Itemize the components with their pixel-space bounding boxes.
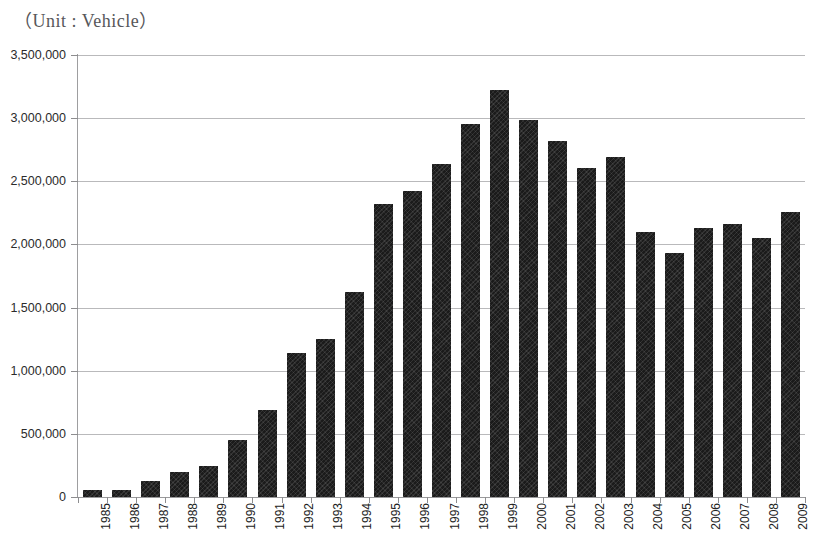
x-axis-tick-label: 1990: [244, 503, 258, 530]
bar-chart: （Unit : Vehicle） 0500,0001,000,0001,500,…: [0, 0, 819, 542]
y-axis-tick-label: 1,500,000: [10, 301, 66, 315]
y-axis-tick-label: 0: [59, 490, 66, 504]
y-axis-tick-label: 500,000: [21, 427, 66, 441]
bar: [752, 238, 771, 497]
y-axis-labels: 0500,0001,000,0001,500,0002,000,0002,500…: [0, 0, 66, 542]
y-axis-tick: [71, 434, 78, 435]
bar: [374, 204, 393, 497]
bar: [199, 466, 218, 497]
bar: [403, 191, 422, 497]
y-axis-tick: [71, 55, 78, 56]
x-axis-tick-label: 1991: [273, 503, 287, 530]
x-axis-tick-label: 2003: [622, 503, 636, 530]
x-axis-tick-label: 2009: [796, 503, 810, 530]
y-axis-tick: [71, 308, 78, 309]
bar: [694, 228, 713, 497]
x-axis-tick-label: 1994: [360, 503, 374, 530]
x-axis-tick-label: 1986: [128, 503, 142, 530]
x-axis-tick-label: 2000: [535, 503, 549, 530]
x-axis-tick-label: 2004: [651, 503, 665, 530]
x-axis-tick-label: 1997: [448, 503, 462, 530]
x-axis-tick-label: 1987: [157, 503, 171, 530]
bar: [636, 232, 655, 497]
bar: [287, 353, 306, 497]
gridline: [78, 55, 805, 56]
x-axis-tick-label: 1985: [99, 503, 113, 530]
x-axis-tick-label: 2007: [738, 503, 752, 530]
y-axis-tick-label: 3,000,000: [10, 111, 66, 125]
bar: [170, 472, 189, 497]
y-axis-tick: [71, 371, 78, 372]
x-axis-tick-label: 1996: [418, 503, 432, 530]
bar: [577, 168, 596, 497]
x-axis-tick-label: 2002: [593, 503, 607, 530]
x-axis-tick-label: 1998: [477, 503, 491, 530]
y-axis-tick-label: 3,500,000: [10, 48, 66, 62]
x-axis-tick-label: 1995: [389, 503, 403, 530]
bar: [548, 141, 567, 497]
bar: [490, 90, 509, 497]
y-axis-tick: [71, 118, 78, 119]
bar: [228, 440, 247, 497]
plot-area: [78, 55, 805, 497]
y-axis-tick-label: 1,000,000: [10, 364, 66, 378]
x-axis-tick-label: 2005: [680, 503, 694, 530]
x-axis-labels: 1985198619871988198919901991199219931994…: [78, 503, 805, 542]
bar: [665, 253, 684, 497]
y-axis-tick-label: 2,500,000: [10, 174, 66, 188]
bar: [316, 339, 335, 497]
bar: [781, 212, 800, 497]
x-axis-tick-label: 1999: [506, 503, 520, 530]
bar: [83, 490, 102, 497]
bar: [519, 120, 538, 497]
bar: [141, 481, 160, 497]
bar: [723, 224, 742, 497]
x-axis-tick-label: 1989: [215, 503, 229, 530]
y-axis-tick-label: 2,000,000: [10, 237, 66, 251]
bar: [258, 410, 277, 497]
x-axis-tick-label: 2006: [709, 503, 723, 530]
x-axis-tick-label: 2008: [767, 503, 781, 530]
bar: [432, 164, 451, 497]
x-axis-tick-label: 2001: [564, 503, 578, 530]
y-axis-tick: [71, 497, 78, 498]
x-axis-tick-label: 1993: [331, 503, 345, 530]
bar: [345, 292, 364, 497]
bar: [112, 490, 131, 497]
bar: [606, 157, 625, 497]
y-axis-tick: [71, 181, 78, 182]
bar: [461, 124, 480, 497]
gridline: [78, 118, 805, 119]
y-axis-tick: [71, 244, 78, 245]
x-axis-tick-label: 1992: [302, 503, 316, 530]
x-axis-tick-label: 1988: [186, 503, 200, 530]
